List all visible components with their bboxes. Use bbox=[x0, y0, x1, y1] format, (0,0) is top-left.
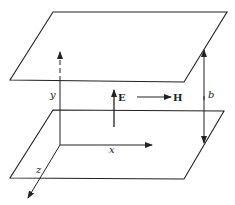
separation-label: b bbox=[208, 89, 214, 100]
z-axis-label: z bbox=[35, 164, 42, 175]
magnetic-field-label: H bbox=[173, 92, 182, 103]
z-axis bbox=[28, 145, 60, 198]
electric-field-label: E bbox=[118, 92, 126, 103]
parallel-plate-diagram: y x z E H b bbox=[0, 0, 235, 205]
y-axis-label: y bbox=[49, 89, 56, 100]
top-plate bbox=[10, 12, 227, 82]
x-axis-label: x bbox=[109, 144, 115, 155]
